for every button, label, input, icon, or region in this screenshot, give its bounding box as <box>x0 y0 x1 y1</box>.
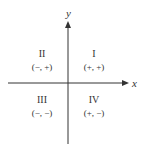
quadrant-iv-signs: (+, −) <box>84 108 105 118</box>
quadrant-i-label: I <box>92 48 95 59</box>
quadrant-iii-label: III <box>37 94 47 105</box>
quadrant-i-signs: (+, +) <box>84 62 105 72</box>
x-axis-arrow-icon <box>122 80 129 86</box>
y-axis-label: y <box>65 7 71 19</box>
x-axis-label: x <box>131 77 137 89</box>
quadrant-ii-label: II <box>39 48 46 59</box>
quadrant-iv-label: IV <box>89 94 100 105</box>
coordinate-plane: x y II (−, +) I (+, +) III (−, −) IV (+,… <box>0 0 144 151</box>
quadrant-ii-signs: (−, +) <box>32 62 53 72</box>
quadrant-iii-signs: (−, −) <box>32 108 53 118</box>
y-axis-arrow-icon <box>65 21 71 28</box>
